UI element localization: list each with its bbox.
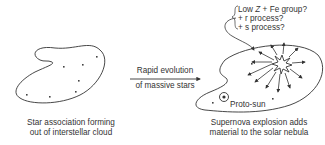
interstellar-cloud-left [16, 45, 105, 102]
supernova-icon [272, 55, 292, 74]
transition-label-bottom: of massive stars [129, 81, 201, 91]
right-caption-line-2: material to the solar nebula [200, 128, 318, 138]
right-caption-line-1: Supernova explosion adds [200, 118, 318, 128]
left-caption-line-2: out of interstellar cloud [12, 128, 130, 138]
proto-sun-icon [220, 93, 229, 102]
note-line-2: + r process? [238, 14, 307, 23]
note-line-3: + s process? [238, 23, 307, 32]
transition-label-top: Rapid evolution [129, 66, 201, 76]
nucleosynthesis-notes: Low Z + Fe group? + r process? + s proce… [238, 5, 307, 32]
left-caption: Star association forming out of interste… [12, 118, 130, 137]
left-caption-line-1: Star association forming [12, 118, 130, 128]
note-line-1: Low Z + Fe group? [238, 5, 307, 14]
proto-sun-label: Proto-sun [230, 100, 266, 110]
right-caption: Supernova explosion adds material to the… [200, 118, 318, 137]
